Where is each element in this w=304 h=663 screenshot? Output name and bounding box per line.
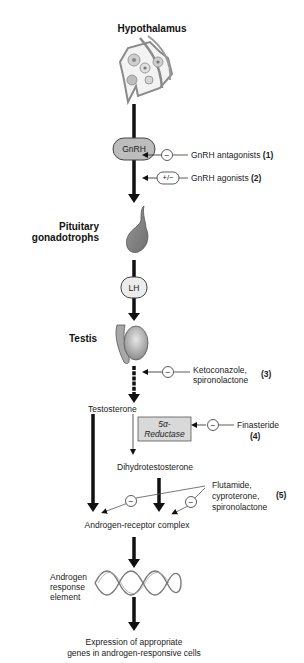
- testis-label: Testis: [69, 333, 97, 344]
- inhibitor-3-label-line2: spironolactone: [193, 375, 248, 385]
- hypothalamus-label: Hypothalamus: [92, 23, 212, 34]
- expression-label-line1: Expression of appropriate: [34, 637, 234, 647]
- inhibitor-5-number: (5): [276, 490, 286, 500]
- inhibitor-3-symbol: −: [163, 367, 173, 377]
- reductase-label-line2: Reductase: [138, 429, 191, 439]
- reductase-label-line1: 5α-: [138, 419, 191, 429]
- pituitary-label-line2: gonadotrophs: [0, 232, 99, 243]
- dht-label: Dihydrotestosterone: [117, 462, 193, 472]
- inhibitor-4-label: Finasteride: [237, 420, 279, 430]
- inhibitor-5a-symbol: −: [126, 496, 136, 506]
- pituitary-label-line1: Pituitary: [0, 221, 99, 232]
- pituitary-illustration: [126, 206, 147, 253]
- inhibitor-3-number: (3): [261, 369, 271, 379]
- pathway-diagram: [0, 0, 304, 663]
- are-label-line3: element: [50, 592, 80, 602]
- arc-label: Androgen-receptor complex: [52, 520, 222, 530]
- inhibitor-5-label-line1: Flutamide,: [212, 480, 252, 490]
- are-label-line1: Androgen: [50, 572, 87, 582]
- inhibitor-2-label: GnRH agonists (2): [191, 173, 261, 183]
- expression-label-line2: genes in androgen-responsive cells: [34, 648, 234, 658]
- inhibitor-5-label-line3: spironolactone: [212, 502, 267, 512]
- inhibitor-5b-symbol: −: [186, 497, 196, 507]
- inhibitor-3-label-line1: Ketoconazole,: [193, 365, 247, 375]
- inhibitor-4-number: (4): [250, 431, 260, 441]
- testis-illustration: [116, 325, 148, 364]
- are-label-line2: response: [50, 582, 85, 592]
- gnrh-label: GnRH: [113, 144, 155, 154]
- dna-helix-illustration: [95, 571, 181, 595]
- testosterone-label: Testosterone: [88, 404, 137, 414]
- lh-label: LH: [121, 283, 147, 293]
- inhibitor-5-label-line2: cyproterone,: [212, 491, 259, 501]
- inhibitor-1-label: GnRH antagonists (1): [191, 150, 273, 160]
- inhibitor-1-symbol: −: [162, 150, 172, 160]
- hypothalamus-illustration: [120, 36, 172, 102]
- inhibitor-4-symbol: −: [208, 420, 218, 430]
- inhibitor-2-symbol: +/−: [157, 173, 179, 183]
